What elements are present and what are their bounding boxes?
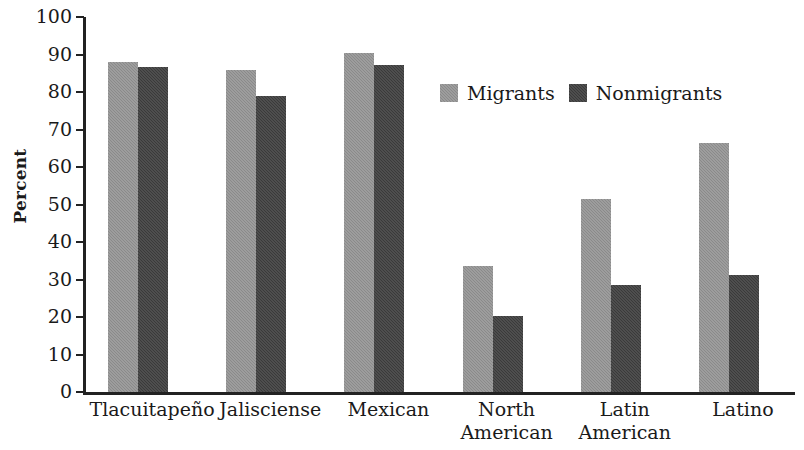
y-axis-tick-label: 90 bbox=[24, 45, 72, 64]
legend-swatch-migrants bbox=[440, 84, 458, 102]
y-axis-tick-label: 70 bbox=[24, 120, 72, 139]
bar-migrants bbox=[699, 143, 729, 392]
bar-group bbox=[322, 17, 440, 392]
y-axis-tick-label: 30 bbox=[24, 270, 72, 289]
y-axis-tick-label: 100 bbox=[24, 7, 72, 26]
bar-group bbox=[441, 17, 559, 392]
bar-migrants bbox=[108, 62, 138, 392]
bar-migrants bbox=[463, 266, 493, 392]
bar-nonmigrants bbox=[493, 316, 523, 392]
x-axis-line bbox=[83, 392, 795, 395]
bar-nonmigrants bbox=[256, 96, 286, 392]
x-axis-category-labels: TlacuitapeñoJaliscienseMexicanNorthAmeri… bbox=[86, 398, 795, 450]
legend-label: Nonmigrants bbox=[596, 82, 723, 104]
y-axis-tick-label: 20 bbox=[24, 307, 72, 326]
y-axis-tick-label: 50 bbox=[24, 195, 72, 214]
legend-swatch-nonmigrants bbox=[569, 84, 587, 102]
bar-chart: Percent 1009080706050403020100 Tlacuitap… bbox=[0, 0, 804, 450]
bar-migrants bbox=[581, 199, 611, 392]
y-axis-tick-label: 80 bbox=[24, 82, 72, 101]
legend-label: Migrants bbox=[467, 82, 555, 104]
bar-nonmigrants bbox=[374, 65, 404, 392]
bar-nonmigrants bbox=[611, 285, 641, 392]
bar-group bbox=[559, 17, 677, 392]
bar-group bbox=[677, 17, 795, 392]
bar-nonmigrants bbox=[138, 67, 168, 393]
legend-item: Migrants bbox=[440, 82, 555, 104]
y-axis-tick-label: 10 bbox=[24, 345, 72, 364]
chart-legend: MigrantsNonmigrants bbox=[440, 82, 722, 104]
x-axis-label: Latino bbox=[673, 398, 804, 421]
y-axis-tick-label: 40 bbox=[24, 232, 72, 251]
x-axis-label-line: American bbox=[555, 421, 695, 444]
y-axis-tick-label: 0 bbox=[24, 382, 72, 401]
bar-migrants bbox=[226, 70, 256, 393]
y-axis-tick-label: 60 bbox=[24, 157, 72, 176]
bar-nonmigrants bbox=[729, 275, 759, 392]
bar-migrants bbox=[344, 53, 374, 392]
bar-group bbox=[86, 17, 204, 392]
y-axis-tick-labels: 1009080706050403020100 bbox=[20, 0, 72, 450]
bar-group bbox=[204, 17, 322, 392]
plot-area bbox=[86, 17, 795, 392]
legend-item: Nonmigrants bbox=[569, 82, 723, 104]
x-axis-label-line: Latino bbox=[673, 398, 804, 421]
